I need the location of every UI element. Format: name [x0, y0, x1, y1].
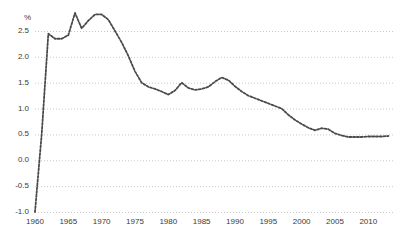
x-axis-tick-label: 1970	[86, 218, 118, 226]
x-axis-tick-label: 2010	[352, 218, 384, 226]
x-axis-tick-label: 1985	[186, 218, 218, 226]
x-axis-tick-label: 2005	[319, 218, 351, 226]
x-axis-tick-label: 1980	[152, 218, 184, 226]
y-axis-tick-label: 0.5	[3, 130, 29, 138]
y-axis-tick-label: 1.5	[3, 79, 29, 87]
y-axis-tick-label: 2.5	[3, 27, 29, 35]
x-axis-tick-label: 1995	[252, 218, 284, 226]
x-axis-tick-label: 1975	[119, 218, 151, 226]
y-axis-tick-label: -0.5	[3, 182, 29, 190]
y-axis-tick-label: 0.0	[3, 156, 29, 164]
y-axis-tick-label: 1.0	[3, 105, 29, 113]
x-axis-tick-label: 1960	[19, 218, 51, 226]
x-axis-tick-label: 2000	[286, 218, 318, 226]
data-series-line	[35, 13, 388, 212]
x-axis-tick-label: 1990	[219, 218, 251, 226]
chart-container: % 2.52.01.51.00.50.0-0.5-1.0 19601965197…	[0, 0, 401, 241]
y-axis-tick-label: -1.0	[3, 208, 29, 216]
y-axis-tick-label: 2.0	[3, 53, 29, 61]
x-axis-tick-label: 1965	[52, 218, 84, 226]
line-chart-plot	[0, 0, 401, 241]
